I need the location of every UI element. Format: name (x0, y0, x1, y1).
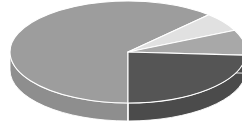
chart-canvas (0, 0, 242, 127)
pie-chart-3d (0, 0, 242, 127)
